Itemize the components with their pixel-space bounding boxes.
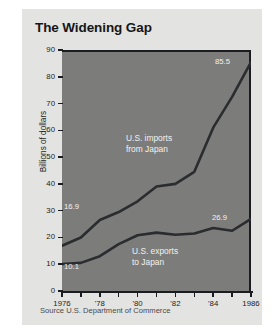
x-tick-label: 1986 — [242, 299, 259, 308]
y-tick-mark — [58, 49, 63, 51]
y-tick-label: 0 — [51, 286, 55, 295]
y-tick-label: 70 — [46, 99, 55, 108]
x-tick-mark — [250, 292, 252, 297]
exports-series-label: U.S. exports to Japan — [132, 246, 178, 267]
y-tick-mark — [58, 76, 63, 78]
y-tick-label: 30 — [46, 206, 55, 215]
x-tick-mark — [194, 292, 196, 297]
y-tick-mark — [58, 263, 63, 265]
y-tick-label: 20 — [46, 232, 55, 241]
x-tick-mark — [61, 292, 63, 297]
x-axis-line — [62, 291, 253, 293]
plot-wrapper: U.S. imports from Japan U.S. exports to … — [62, 50, 251, 291]
imports-end-value-label: 85.5 — [215, 57, 230, 66]
imports-series-label: U.S. imports from Japan — [126, 133, 172, 154]
exports-start-value-label: 10.1 — [64, 262, 79, 271]
imports-series-label-line2: from Japan — [126, 144, 172, 155]
y-tick-label: 60 — [46, 125, 55, 134]
y-tick-mark — [58, 103, 63, 105]
y-tick-label: 10 — [46, 259, 55, 268]
x-tick-mark — [231, 292, 233, 297]
exports-series-label-line1: U.S. exports — [132, 246, 178, 257]
y-tick-label: 90 — [46, 45, 55, 54]
y-tick-mark — [58, 183, 63, 185]
y-tick-mark — [58, 156, 63, 158]
x-tick-label: '82 — [170, 299, 180, 308]
y-tick-mark — [58, 130, 63, 132]
y-tick-mark — [58, 237, 63, 239]
x-tick-mark — [118, 292, 120, 297]
x-tick-mark — [99, 292, 101, 297]
y-tick-label: 40 — [46, 179, 55, 188]
source-note: Source U.S. Department of Commerce — [40, 306, 170, 315]
x-tick-mark — [175, 292, 177, 297]
chart-figure: The Widening Gap Billions of dollars U.S… — [22, 9, 262, 325]
exports-series-label-line2: to Japan — [132, 257, 178, 268]
imports-start-value-label: 16.9 — [64, 202, 79, 211]
x-tick-mark — [80, 292, 82, 297]
y-tick-label: 50 — [46, 152, 55, 161]
chart-title: The Widening Gap — [35, 20, 152, 35]
imports-series-label-line1: U.S. imports — [126, 133, 172, 144]
y-tick-mark — [58, 210, 63, 212]
exports-end-value-label: 26.9 — [212, 213, 227, 222]
x-tick-mark — [156, 292, 158, 297]
x-tick-mark — [212, 292, 214, 297]
y-tick-label: 80 — [46, 72, 55, 81]
x-tick-mark — [137, 292, 139, 297]
x-tick-label: '84 — [208, 299, 218, 308]
